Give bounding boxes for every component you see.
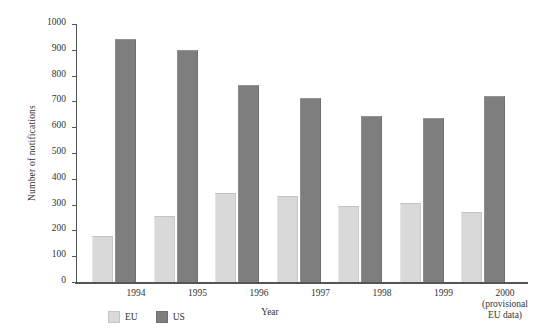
y-axis-tick: 600 xyxy=(72,127,77,128)
y-axis-tick: 900 xyxy=(72,50,77,51)
y-axis-tick: 100 xyxy=(72,256,77,257)
y-axis-tick-label: 0 xyxy=(26,275,66,285)
y-axis-tick: 800 xyxy=(72,76,77,77)
x-axis-title: Year xyxy=(0,307,540,317)
plot-area: 01002003004005006007008009001000 1994199… xyxy=(76,24,528,282)
y-axis-tick-label: 900 xyxy=(26,43,66,53)
y-axis-tick-label: 400 xyxy=(26,172,66,182)
bar-us-1994 xyxy=(115,39,136,282)
y-axis-tick: 700 xyxy=(72,101,77,102)
bar-eu-1997 xyxy=(277,196,298,282)
bar-us-1996 xyxy=(238,85,259,282)
chart-legend: EUUS xyxy=(108,311,185,323)
y-axis-tick: 300 xyxy=(72,205,77,206)
y-axis-tick-label: 300 xyxy=(26,198,66,208)
x-axis-line xyxy=(75,282,528,284)
y-axis-tick: 1000 xyxy=(72,24,77,25)
bar-eu-1994 xyxy=(92,236,113,282)
bar-us-1998 xyxy=(361,116,382,282)
bar-us-1997 xyxy=(300,98,321,282)
y-axis-tick-label: 800 xyxy=(26,69,66,79)
legend-label: US xyxy=(173,312,185,322)
bar-us-1999 xyxy=(423,118,444,282)
y-axis-tick-label: 200 xyxy=(26,223,66,233)
y-axis-tick-label: 500 xyxy=(26,146,66,156)
bar-eu-1999 xyxy=(400,203,421,282)
bar-eu-1998 xyxy=(338,206,359,282)
legend-item-eu: EU xyxy=(108,311,138,323)
bar-chart: Number of notifications 0100200300400500… xyxy=(0,0,540,333)
legend-swatch-eu xyxy=(108,311,120,323)
legend-swatch-us xyxy=(156,311,168,323)
y-axis-tick: 0 xyxy=(72,282,77,283)
y-axis-tick-label: 1000 xyxy=(26,17,66,27)
legend-item-us: US xyxy=(156,311,185,323)
y-axis-tick: 500 xyxy=(72,153,77,154)
y-axis-tick: 200 xyxy=(72,230,77,231)
legend-label: EU xyxy=(125,312,138,322)
bar-eu-1996 xyxy=(215,193,236,282)
bar-eu-2000 xyxy=(461,212,482,282)
y-axis-tick-label: 100 xyxy=(26,249,66,259)
bar-us-1995 xyxy=(177,50,198,282)
y-axis-tick-label: 600 xyxy=(26,120,66,130)
y-axis-tick: 400 xyxy=(72,179,77,180)
bar-us-2000 xyxy=(484,96,505,282)
y-axis-tick-label: 700 xyxy=(26,94,66,104)
bar-eu-1995 xyxy=(154,216,175,282)
